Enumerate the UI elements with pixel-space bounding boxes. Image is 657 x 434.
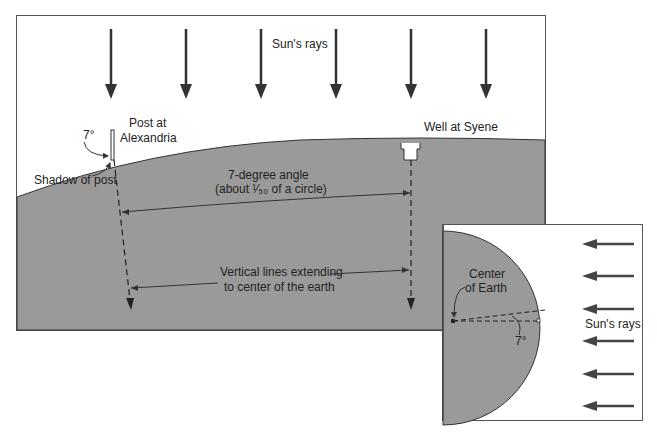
vertical-label-2: to center of the earth <box>224 280 335 294</box>
angle-label-1: 7-degree angle <box>228 168 309 182</box>
post-label-2: Alexandria <box>120 131 177 145</box>
shadow-label: Shadow of post <box>34 173 117 187</box>
sun-rays-label: Sun's rays <box>272 37 328 51</box>
vertical-label-1: Vertical lines extending <box>220 265 343 279</box>
well-label: Well at Syene <box>424 120 498 134</box>
post <box>111 130 114 160</box>
eratosthenes-diagram: Sun's rays Post at Alexandria 7° Shadow … <box>0 0 657 434</box>
inset-sun-rays-label: Sun's rays <box>585 317 641 331</box>
angle-label-2: (about ¹⁄₅₀ of a circle) <box>215 182 327 196</box>
inset-panel: Center of Earth 7° Sun's rays <box>443 225 643 426</box>
center-label-2: of Earth <box>465 281 507 295</box>
inset-angle-label: 7° <box>515 334 527 348</box>
center-label-1: Center <box>469 267 505 281</box>
well <box>401 143 420 160</box>
post-angle-label: 7° <box>83 128 95 142</box>
post-label-1: Post at <box>129 116 167 130</box>
